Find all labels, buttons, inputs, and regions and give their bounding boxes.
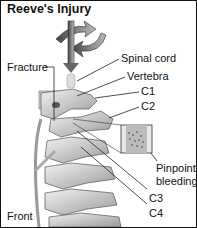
label-bleeding: bleeding [156, 175, 197, 187]
rotation-arrows-icon [56, 21, 106, 73]
label-front: Front [7, 210, 33, 222]
diagram-title: Reeve's Injury [7, 2, 91, 16]
label-spinal-cord: Spinal cord [121, 52, 176, 64]
label-fracture: Fracture [7, 61, 48, 73]
spine-illustration [1, 1, 196, 227]
label-vertebra: Vertebra [127, 70, 169, 82]
label-c1: C1 [141, 85, 155, 97]
label-pinpoint: Pinpoint [156, 162, 196, 174]
label-c4: C4 [149, 207, 163, 219]
label-c2: C2 [141, 100, 155, 112]
diagram-frame: Reeve's Injury Spinal cord Fracture Vert… [0, 0, 197, 228]
label-c3: C3 [149, 192, 163, 204]
